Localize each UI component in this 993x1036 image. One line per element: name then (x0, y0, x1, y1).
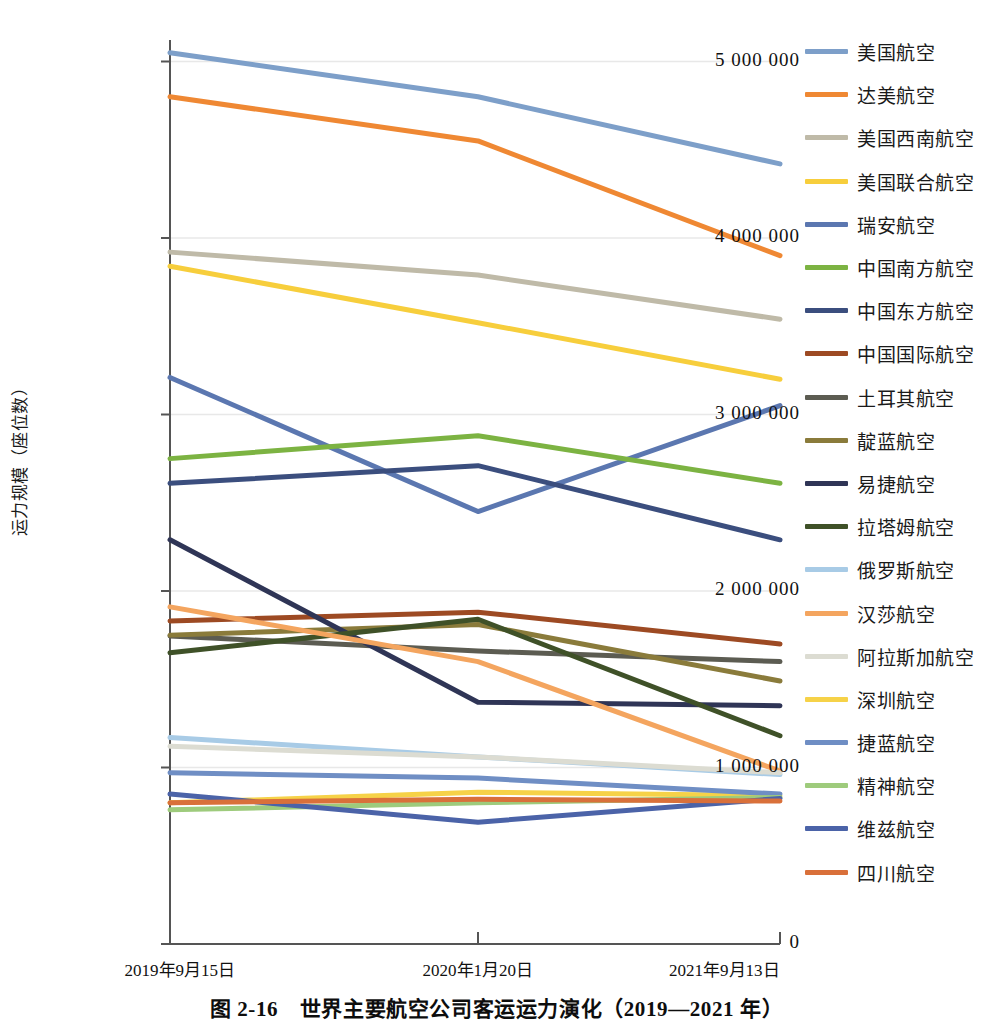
legend-color-swatch (805, 308, 848, 313)
legend-label: 精神航空 (857, 772, 935, 799)
legend-item[interactable]: 精神航空 (805, 764, 993, 807)
legend-color-swatch (805, 697, 848, 702)
x-tick-label: 2021年9月13日 (669, 956, 780, 981)
legend-item[interactable]: 俄罗斯航空 (805, 548, 993, 591)
x-tick-label: 2020年1月20日 (423, 956, 534, 981)
legend-color-swatch (805, 654, 848, 659)
legend-label: 阿拉斯加航空 (857, 643, 974, 670)
x-tick-label: 2019年9月15日 (125, 956, 236, 981)
legend-color-swatch (805, 567, 848, 572)
legend-label: 瑞安航空 (857, 211, 935, 238)
legend-item[interactable]: 四川航空 (805, 851, 993, 894)
legend-color-swatch (805, 351, 848, 356)
y-tick-label: 2 000 000 (676, 578, 800, 600)
legend-label: 四川航空 (857, 859, 935, 886)
legend-color-swatch (805, 870, 848, 875)
y-tick-label: 4 000 000 (676, 225, 800, 247)
series-line (170, 377, 780, 511)
legend-label: 美国西南航空 (857, 124, 974, 151)
y-axis-title: 运力规模（座位数） (6, 308, 31, 608)
legend-item[interactable]: 中国国际航空 (805, 332, 993, 375)
legend-label: 中国东方航空 (857, 297, 974, 324)
legend-color-swatch (805, 265, 848, 270)
legend-color-swatch (805, 783, 848, 788)
legend-item[interactable]: 土耳其航空 (805, 376, 993, 419)
legend-item[interactable]: 拉塔姆航空 (805, 505, 993, 548)
legend-label: 汉莎航空 (857, 600, 935, 627)
y-tick-label: 5 000 000 (676, 49, 800, 71)
legend-color-swatch (805, 611, 848, 616)
legend-color-swatch (805, 438, 848, 443)
legend-label: 中国南方航空 (857, 254, 974, 281)
legend-color-swatch (805, 135, 848, 140)
legend-item[interactable]: 美国西南航空 (805, 116, 993, 159)
line-chart-svg (0, 0, 800, 990)
figure-caption: 图 2-16 世界主要航空公司客运运力演化（2019—2021 年） (0, 992, 993, 1022)
legend-color-swatch (805, 826, 848, 831)
figure-container: 运力规模（座位数） 5 000 0004 000 0003 000 0002 0… (0, 0, 993, 1036)
legend-color-swatch (805, 524, 848, 529)
series-line (170, 252, 780, 319)
plot-area: 运力规模（座位数） 5 000 0004 000 0003 000 0002 0… (0, 0, 800, 990)
legend-item[interactable]: 中国南方航空 (805, 246, 993, 289)
legend-item[interactable]: 维兹航空 (805, 807, 993, 850)
series-line (170, 466, 780, 540)
legend-label: 易捷航空 (857, 470, 935, 497)
series-line (170, 636, 780, 662)
legend-item[interactable]: 达美航空 (805, 73, 993, 116)
legend-label: 达美航空 (857, 81, 935, 108)
legend-item[interactable]: 美国联合航空 (805, 160, 993, 203)
y-tick-label: 1 000 000 (676, 755, 800, 777)
legend-item[interactable]: 捷蓝航空 (805, 721, 993, 764)
legend-item[interactable]: 阿拉斯加航空 (805, 635, 993, 678)
series-lines (170, 53, 780, 823)
legend-item[interactable]: 瑞安航空 (805, 203, 993, 246)
legend-item[interactable]: 美国航空 (805, 30, 993, 73)
legend-item[interactable]: 易捷航空 (805, 462, 993, 505)
legend-item[interactable]: 深圳航空 (805, 678, 993, 721)
series-line (170, 266, 780, 379)
y-tick-label: 3 000 000 (676, 402, 800, 424)
legend-color-swatch (805, 395, 848, 400)
legend-label: 捷蓝航空 (857, 729, 935, 756)
legend-label: 深圳航空 (857, 686, 935, 713)
legend-label: 俄罗斯航空 (857, 556, 955, 583)
legend-item[interactable]: 中国东方航空 (805, 289, 993, 332)
legend-label: 美国联合航空 (857, 168, 974, 195)
legend-item[interactable]: 靛蓝航空 (805, 419, 993, 462)
legend-color-swatch (805, 740, 848, 745)
legend-label: 土耳其航空 (857, 384, 955, 411)
y-tick-label: 0 (676, 931, 800, 953)
axis-ticks (161, 62, 780, 945)
legend-color-swatch (805, 481, 848, 486)
legend-label: 拉塔姆航空 (857, 513, 955, 540)
legend-label: 维兹航空 (857, 815, 935, 842)
legend-color-swatch (805, 179, 848, 184)
legend-label: 靛蓝航空 (857, 427, 935, 454)
legend-label: 美国航空 (857, 38, 935, 65)
legend-label: 中国国际航空 (857, 340, 974, 367)
legend-color-swatch (805, 92, 848, 97)
legend-color-swatch (805, 49, 848, 54)
legend-color-swatch (805, 222, 848, 227)
chart-legend: 美国航空达美航空美国西南航空美国联合航空瑞安航空中国南方航空中国东方航空中国国际… (805, 30, 993, 894)
legend-item[interactable]: 汉莎航空 (805, 591, 993, 634)
